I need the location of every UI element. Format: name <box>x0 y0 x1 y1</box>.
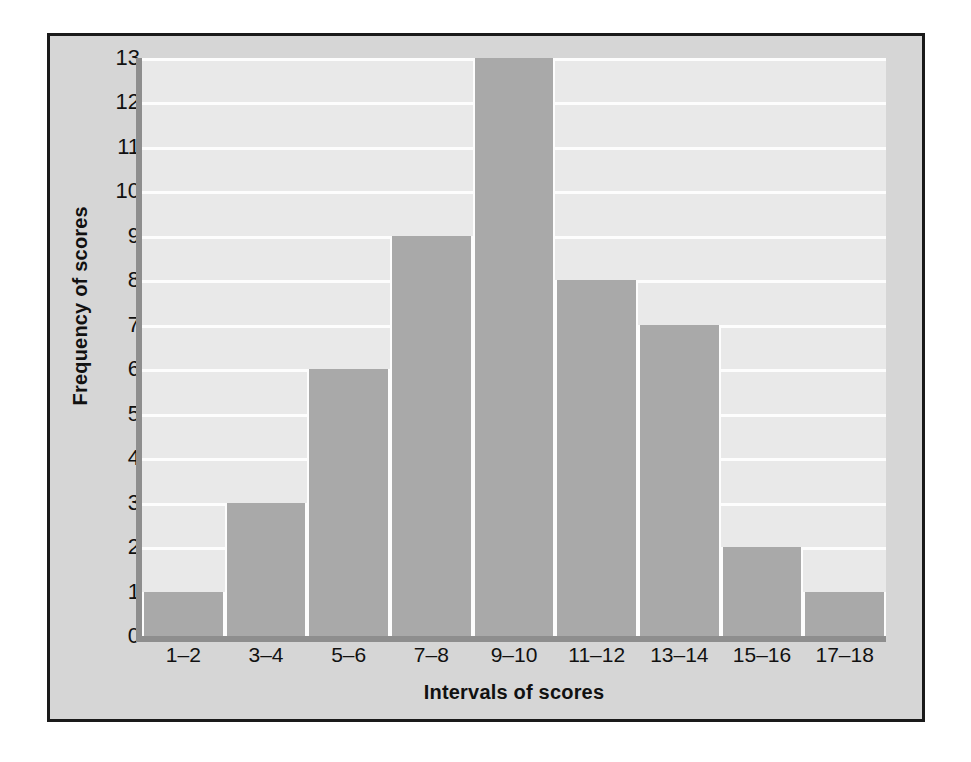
y-axis-tick-label: 0 <box>70 625 140 647</box>
bar-slot <box>803 58 886 636</box>
bar-slot <box>307 58 390 636</box>
plot-frame <box>136 58 886 636</box>
histogram-figure: Frequency of scores 131211109876543210 1… <box>47 33 925 722</box>
x-axis-title: Intervals of scores <box>142 681 886 704</box>
plot-area <box>142 58 886 636</box>
x-axis-tick-label: 13–14 <box>638 644 721 665</box>
bar-slot <box>721 58 804 636</box>
bar-series <box>142 58 886 636</box>
y-axis-tick-label: 1 <box>70 581 140 603</box>
x-axis-tick-label: 15–16 <box>721 644 804 665</box>
x-axis-line <box>136 636 886 642</box>
y-axis-tick-label: 12 <box>70 91 140 113</box>
x-axis-tick-label: 1–2 <box>142 644 225 665</box>
y-axis-tick-label: 3 <box>70 492 140 514</box>
y-axis-tick-label: 11 <box>70 136 140 158</box>
bar[interactable] <box>225 503 308 636</box>
bar-slot <box>142 58 225 636</box>
x-axis-tick-label: 3–4 <box>225 644 308 665</box>
y-axis-tick-labels: 131211109876543210 <box>70 58 140 636</box>
y-axis-tick-label: 7 <box>70 314 140 336</box>
x-axis-tick-label: 17–18 <box>803 644 886 665</box>
bar[interactable] <box>142 592 225 636</box>
y-axis-tick-label: 13 <box>70 47 140 69</box>
bar[interactable] <box>390 236 473 636</box>
bar[interactable] <box>721 547 804 636</box>
bar[interactable] <box>307 369 390 636</box>
x-axis-tick-label: 5–6 <box>307 644 390 665</box>
y-axis-tick-label: 2 <box>70 536 140 558</box>
x-axis-tick-label: 7–8 <box>390 644 473 665</box>
bar-slot <box>638 58 721 636</box>
x-axis-tick-label: 11–12 <box>555 644 638 665</box>
bar[interactable] <box>638 325 721 636</box>
y-axis-tick-label: 8 <box>70 269 140 291</box>
x-axis-tick-labels: 1–23–45–67–89–1011–1213–1415–1617–18 <box>142 644 886 665</box>
x-axis-tick-label: 9–10 <box>473 644 556 665</box>
bar[interactable] <box>803 592 886 636</box>
bar[interactable] <box>473 58 556 636</box>
y-axis-tick-label: 10 <box>70 180 140 202</box>
bar[interactable] <box>555 280 638 636</box>
y-axis-tick-label: 4 <box>70 447 140 469</box>
bar-slot <box>225 58 308 636</box>
bar-slot <box>473 58 556 636</box>
bar-slot <box>390 58 473 636</box>
y-axis-tick-label: 6 <box>70 358 140 380</box>
bar-slot <box>555 58 638 636</box>
y-axis-line <box>136 58 142 636</box>
y-axis-tick-label: 5 <box>70 403 140 425</box>
y-axis-tick-label: 9 <box>70 225 140 247</box>
